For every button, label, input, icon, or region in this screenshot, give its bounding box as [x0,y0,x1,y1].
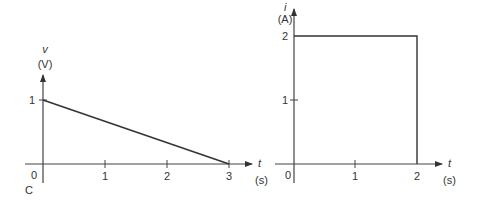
right-x-label: t [448,158,451,169]
right-origin-label: 0 [285,170,291,181]
left-x-label: t [258,158,261,169]
right-y-unit: (A) [278,14,293,25]
right-y-label: i [284,2,286,13]
current-line [294,36,417,164]
left-xtick-label-2: 2 [164,171,170,182]
left-y-unit: (V) [38,59,53,70]
right-xtick-label-2: 2 [414,171,420,182]
voltage-chart [25,75,252,183]
right-ytick-label-2: 2 [282,31,288,42]
annotation-c: C [25,185,33,196]
voltage-line [43,100,229,164]
left-origin-label: 0 [31,170,37,181]
charts-canvas [0,0,478,205]
left-xtick-label-3: 3 [226,171,232,182]
left-x-unit: (s) [255,175,268,186]
current-chart [275,9,442,183]
right-xtick-label-1: 1 [352,171,358,182]
left-ytick-label-1: 1 [29,95,35,106]
right-ytick-label-1: 1 [282,95,288,106]
right-x-unit: (s) [443,175,456,186]
left-xtick-label-1: 1 [102,171,108,182]
left-y-label: v [42,44,48,55]
